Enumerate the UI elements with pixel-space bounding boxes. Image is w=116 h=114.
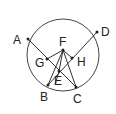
segment-f-e [59,50,63,71]
point-a-dot [27,38,30,41]
label-h: H [77,55,86,69]
point-d-dot [96,31,99,34]
label-c: C [73,92,82,106]
point-g-dot [46,58,49,61]
label-e: E [54,74,62,88]
geometry-diagram: A D F G H E B C [0,0,116,114]
label-a: A [13,33,21,47]
point-labels: A D F G H E B C [13,25,110,106]
label-d: D [101,25,110,39]
point-h-dot [71,57,74,60]
circle [27,19,99,91]
point-c-dot [75,86,78,89]
label-g: G [35,56,44,70]
point-e-dot [58,70,61,73]
label-b: B [40,90,48,104]
point-b-dot [47,84,50,87]
label-f: F [59,35,66,49]
